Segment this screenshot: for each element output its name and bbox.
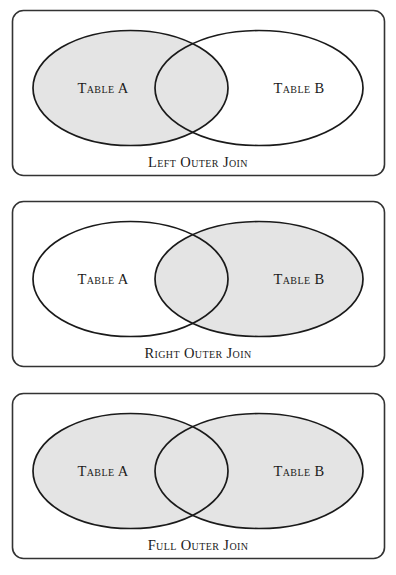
panel-right-outer-join: Table A Table B Right Outer Join — [0, 191, 396, 377]
label-table-b: Table B — [273, 463, 324, 479]
caption-left-outer-join: Left Outer Join — [148, 154, 248, 170]
label-table-a: Table A — [77, 271, 128, 287]
label-table-b: Table B — [273, 80, 324, 96]
caption-right-outer-join: Right Outer Join — [144, 345, 251, 361]
panel-left-outer-join: Table A Table B Left Outer Join — [0, 0, 396, 186]
label-table-b: Table B — [273, 271, 324, 287]
panel-full-outer-join: Table A Table B Full Outer Join — [0, 383, 396, 569]
label-table-a: Table A — [77, 463, 128, 479]
join-types-venn-figure: Table A Table B Left Outer Join Table A … — [0, 0, 396, 575]
caption-full-outer-join: Full Outer Join — [148, 537, 249, 553]
label-table-a: Table A — [77, 80, 128, 96]
